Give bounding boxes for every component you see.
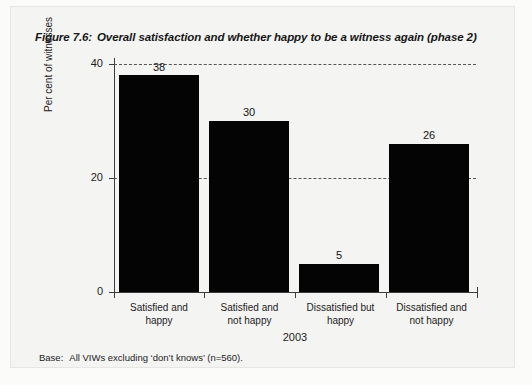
category-label-1-line1: Satisfied and: [114, 301, 204, 314]
bar-dissatisfied-and-not-happy: [389, 144, 469, 292]
x-tick-2: [295, 292, 296, 298]
plot-area: [114, 64, 476, 292]
x-tick-1: [204, 292, 205, 298]
x-axis-title: 2003: [114, 331, 476, 343]
figure-title-text: Overall satisfaction and whether happy t…: [97, 31, 477, 43]
base-note-text: All VIWs excluding ‘don’t knows’ (n=560)…: [69, 352, 243, 363]
y-tick-mark-40: [109, 64, 114, 65]
bar-satisfied-and-happy: [119, 75, 199, 292]
x-tick-3: [386, 292, 387, 298]
category-label-4-line1: Dissatisfied and: [386, 301, 477, 314]
category-label-1: Satisfied and happy: [114, 301, 204, 327]
x-tick-4: [477, 292, 478, 298]
category-label-2-line2: not happy: [204, 314, 295, 327]
y-tick-label-0: 0: [77, 285, 103, 297]
category-label-4: Dissatisfied and not happy: [386, 301, 477, 327]
y-tick-label-40: 40: [77, 57, 103, 69]
y-tick-mark-20: [109, 178, 114, 179]
bar-dissatisfied-but-happy: [299, 264, 379, 293]
base-note-lead: Base:: [39, 352, 63, 363]
bar-value-1: 38: [119, 61, 199, 73]
bar-value-4: 26: [389, 129, 469, 141]
category-label-3: Dissatisfied but happy: [295, 301, 386, 327]
figure-panel: Figure 7.6:Overall satisfaction and whet…: [10, 6, 515, 368]
bar-value-3: 5: [299, 249, 379, 261]
category-label-2: Satisfied and not happy: [204, 301, 295, 327]
category-label-3-line2: happy: [295, 314, 386, 327]
category-label-2-line1: Satisfied and: [204, 301, 295, 314]
figure-screenshot: Figure 7.6:Overall satisfaction and whet…: [0, 0, 532, 385]
category-label-3-line1: Dissatisfied but: [295, 301, 386, 314]
y-tick-label-20: 20: [77, 171, 103, 183]
category-label-1-line2: happy: [114, 314, 204, 327]
base-note: Base:All VIWs excluding ‘don’t knows’ (n…: [39, 352, 243, 363]
bar-value-2: 30: [209, 106, 289, 118]
y-axis-title: Per cent of witnesses: [43, 0, 54, 130]
x-tick-0: [114, 292, 115, 298]
category-label-4-line2: not happy: [386, 314, 477, 327]
bar-satisfied-and-not-happy: [209, 121, 289, 292]
figure-title: Figure 7.6:Overall satisfaction and whet…: [35, 31, 515, 43]
